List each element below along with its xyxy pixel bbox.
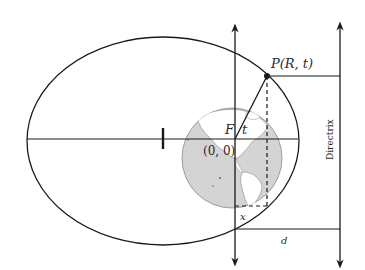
point-p [264, 73, 270, 79]
angle-label: t [242, 122, 248, 137]
x-label: x [240, 211, 246, 222]
directrix-label: Directrix [325, 119, 335, 160]
d-label: d [281, 235, 287, 246]
orbit-diagram: P(R, t) F t (0, 0) x d Directrix [0, 0, 365, 270]
point-p-label: P(R, t) [270, 56, 313, 71]
focus-label: F [224, 122, 235, 137]
origin-label: (0, 0) [203, 144, 235, 158]
